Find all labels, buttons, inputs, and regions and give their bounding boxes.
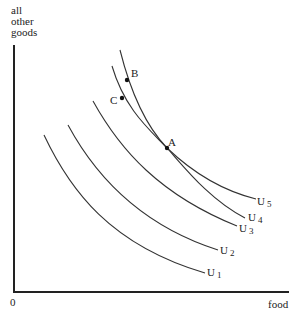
y-axis-label: all other goods [11,5,71,38]
curve-u3-subscript: 3 [249,226,254,236]
curve-u4-label: U4 [248,211,262,225]
curve-u5-subscript: 5 [267,199,272,209]
curve-u2-letter: U [220,244,228,256]
curve-u1-label: U1 [207,266,221,280]
indifference-curve-diagram [0,0,296,315]
curve-u5 [120,50,256,199]
point-b-marker [125,78,129,82]
curve-u1-subscript: 1 [217,270,222,280]
curve-u2-label: U2 [220,244,234,258]
curve-u1 [44,135,205,273]
point-c-label: C [110,94,117,106]
point-b-label: B [131,67,138,79]
curve-u4-subscript: 4 [258,215,263,225]
curve-u3 [93,101,237,226]
x-axis-label: food [268,299,288,310]
origin-label: 0 [10,297,16,308]
curve-u5-letter: U [257,195,265,207]
point-c-marker [120,96,124,100]
y-axis-label-line-3: goods [11,27,71,38]
point-a-label: A [168,136,176,148]
curve-u4-letter: U [248,211,256,223]
curve-u2-subscript: 2 [230,248,235,258]
curve-u3-letter: U [239,222,247,234]
curve-u1-letter: U [207,266,215,278]
curve-u2 [68,125,218,250]
curve-u5-label: U5 [257,195,271,209]
